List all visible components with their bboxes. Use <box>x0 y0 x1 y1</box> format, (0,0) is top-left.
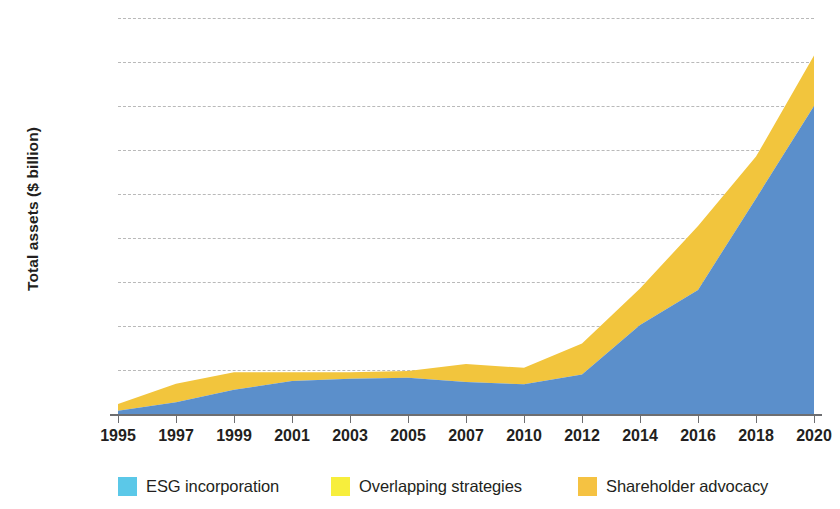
x-axis-tick-mark <box>640 414 641 423</box>
x-axis-tick-label: 1997 <box>158 427 194 445</box>
x-axis-tick-label: 2012 <box>564 427 600 445</box>
x-axis-tick-label: 2010 <box>506 427 542 445</box>
x-axis-tick-mark <box>524 414 525 423</box>
legend-item-shareholder-advocacy[interactable]: Shareholder advocacy <box>578 477 768 496</box>
x-axis-tick-mark <box>408 414 409 423</box>
x-axis-tick-label: 2007 <box>448 427 484 445</box>
area-series-group <box>118 18 814 414</box>
chart-legend: ESG incorporationOverlapping strategiesS… <box>118 472 818 500</box>
x-axis-tick-mark <box>698 414 699 423</box>
legend-swatch <box>118 477 137 496</box>
x-axis-tick-label: 2018 <box>738 427 774 445</box>
legend-label: Overlapping strategies <box>359 477 522 496</box>
x-axis-tick-label: 2016 <box>680 427 716 445</box>
x-axis-tick-mark <box>234 414 235 423</box>
plot-area <box>118 18 814 414</box>
x-axis-tick-label: 1995 <box>100 427 136 445</box>
legend-item-overlapping-strategies[interactable]: Overlapping strategies <box>331 477 522 496</box>
legend-label: ESG incorporation <box>146 477 279 496</box>
stacked-area-chart: Total assets ($ billion) 02,0004,0006,00… <box>0 0 840 509</box>
x-axis-tick-label: 2005 <box>390 427 426 445</box>
x-axis-tick-label: 2020 <box>796 427 832 445</box>
x-axis-tick-label: 2001 <box>274 427 310 445</box>
x-axis-tick-mark <box>466 414 467 423</box>
x-axis-tick-mark <box>292 414 293 423</box>
x-axis-tick-label: 1999 <box>216 427 252 445</box>
legend-item-esg-incorporation[interactable]: ESG incorporation <box>118 477 279 496</box>
y-axis-title: Total assets ($ billion) <box>24 84 42 334</box>
x-axis-tick-mark <box>118 414 119 423</box>
x-axis-tick-mark <box>582 414 583 423</box>
x-axis-tick-mark <box>176 414 177 423</box>
legend-label: Shareholder advocacy <box>606 477 768 496</box>
x-axis-tick-mark <box>350 414 351 423</box>
x-axis-tick-label: 2003 <box>332 427 368 445</box>
x-axis-tick-mark <box>814 414 815 423</box>
legend-swatch <box>331 477 350 496</box>
legend-swatch <box>578 477 597 496</box>
x-axis-tick-label: 2014 <box>622 427 658 445</box>
x-axis-tick-mark <box>756 414 757 423</box>
